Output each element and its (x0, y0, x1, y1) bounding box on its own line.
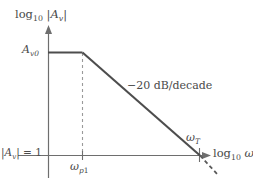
y-axis-label: log10 |Av| (15, 9, 67, 21)
plot-canvas (0, 0, 253, 190)
plateau-value-label: Av0 (22, 44, 39, 55)
transition-frequency-label: ωT (186, 132, 200, 143)
slope-annotation: −20 dB/decade (127, 80, 212, 91)
pole-frequency-label: ωp1 (70, 161, 89, 172)
x-axis-label: log10 ω (213, 148, 253, 160)
bode-plot-figure: log10 |Av| Av0 |Av| = 1 ωp1 ωT −20 dB/de… (0, 0, 253, 190)
unity-gain-label: |Av| = 1 (1, 147, 42, 158)
x-axis (18, 152, 211, 159)
rolloff-segment (83, 53, 201, 156)
x-axis-arrowhead (202, 152, 211, 159)
y-axis-arrowhead (45, 25, 52, 34)
